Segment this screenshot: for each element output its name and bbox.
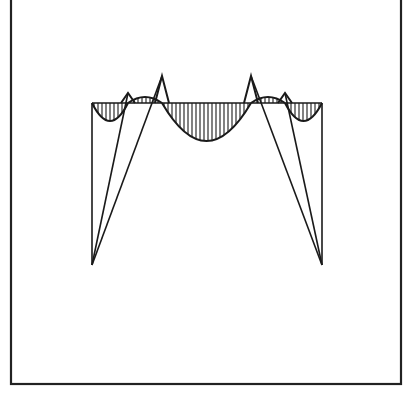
lobe-left-edge-hatch <box>94 101 126 123</box>
lobe-outline-group <box>92 76 322 141</box>
diagram-svg <box>0 0 409 399</box>
lobe-center-hatch <box>164 101 248 143</box>
outer-border-rectangle <box>11 0 401 384</box>
lobe-center-outline <box>162 103 251 141</box>
lobe-right-edge-hatch <box>287 101 319 123</box>
figure-canvas <box>0 0 409 399</box>
